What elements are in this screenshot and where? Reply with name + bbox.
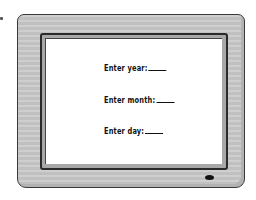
day-input-blank[interactable] — [145, 125, 163, 134]
year-input-blank[interactable] — [148, 62, 166, 71]
illustration-stage: Enter year: Enter month: Enter day: — [0, 0, 256, 200]
month-prompt-label: Enter month: — [104, 95, 155, 105]
corner-mark — [0, 17, 3, 20]
month-input-blank[interactable] — [156, 94, 174, 103]
year-prompt: Enter year: — [104, 62, 166, 73]
day-prompt: Enter day: — [104, 125, 163, 136]
month-prompt: Enter month: — [104, 94, 174, 105]
day-prompt-label: Enter day: — [104, 126, 144, 136]
year-prompt-label: Enter year: — [104, 63, 148, 73]
screen-bezel: Enter year: Enter month: Enter day: — [40, 33, 228, 170]
crt-monitor: Enter year: Enter month: Enter day: — [17, 14, 245, 188]
monitor-screen: Enter year: Enter month: Enter day: — [45, 38, 222, 164]
power-led-icon — [205, 175, 214, 180]
